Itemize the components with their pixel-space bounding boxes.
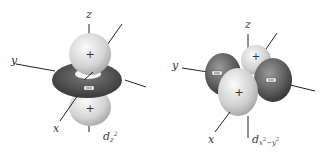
x-axis-front [215,112,230,132]
y-axis-right [125,80,146,87]
y-axis-left [16,64,55,71]
orbital-label-dx2-y2: dx2−y2 [252,134,279,147]
z-axis-label: z [245,19,251,30]
y-axis-label: y [11,55,17,66]
svg-text:+: + [85,48,94,61]
svg-text:+: + [85,102,94,115]
x-axis-label: x [53,123,59,134]
dz2-orbital-drawing: + + [0,0,160,158]
svg-text:+: + [234,86,243,99]
x-axis-label: x [208,134,214,145]
y-axis-left [182,68,208,72]
dz2-orbital-panel: + + z y x dz2 [0,0,160,158]
orbital-label-dz2: dz2 [103,131,118,144]
dx2-y2-orbital-panel: + + z y x dx2−y2 [160,0,325,158]
y-axis-label: y [172,60,178,71]
svg-text:+: + [252,51,260,62]
dx2-y2-orbital-drawing: + + [160,0,325,158]
y-axis-right [290,85,315,91]
z-axis-label: z [86,9,92,20]
